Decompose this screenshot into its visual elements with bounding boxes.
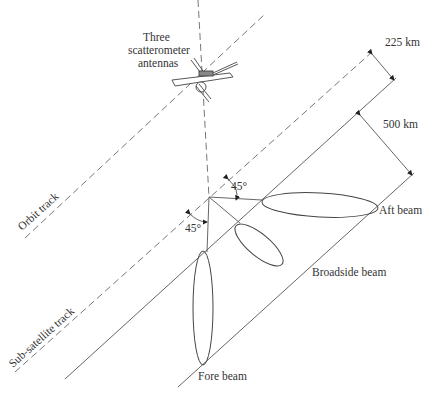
fore-beam-ray	[207, 197, 209, 252]
broadside-beam-ray	[209, 197, 240, 223]
angle-label-fore: 45°	[185, 222, 202, 234]
swath-label: 500 km	[383, 118, 418, 130]
antennas-label-3: antennas	[138, 57, 179, 69]
satellite-icon	[172, 58, 238, 102]
aft-beam-label: Aft beam	[379, 204, 422, 216]
sub-satellite-track-label: Sub-satellite track	[6, 305, 76, 370]
scatterometer-diagram: Three scatterometer antennas 225 km 500 …	[0, 0, 432, 397]
aft-beam-footprint	[261, 190, 378, 220]
aft-beam-ray	[209, 197, 262, 200]
nadir-line	[198, 0, 209, 197]
swath-inner-edge	[65, 78, 396, 379]
gap-label: 225 km	[385, 36, 420, 48]
angle-arc-fore	[190, 214, 207, 222]
broadside-beam-label: Broadside beam	[312, 266, 386, 278]
fore-beam-footprint	[193, 251, 213, 365]
gap-dimension-arrow	[372, 54, 394, 80]
antennas-label-1: Three	[143, 31, 170, 43]
antennas-label-2: scatterometer	[128, 44, 190, 56]
angle-label-aft: 45°	[231, 180, 248, 192]
broadside-beam-footprint	[229, 217, 289, 272]
fore-beam-label: Fore beam	[198, 370, 247, 382]
